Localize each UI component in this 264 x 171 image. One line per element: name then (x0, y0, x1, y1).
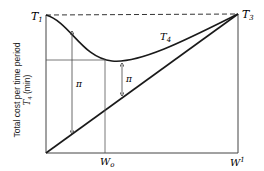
svg-text:T4 (min): T4 (min) (22, 74, 33, 105)
t4-curve (46, 14, 238, 61)
label-w1: W1 (230, 156, 245, 168)
label-wo: Wo (100, 156, 115, 169)
label-t4-curve: T4 (160, 31, 171, 44)
cost-diagram: T1 T3 T4 π π Wo W1 Total cost per time p… (0, 0, 264, 171)
diagonal-line (46, 14, 238, 153)
label-pi-left: π (75, 79, 83, 89)
label-pi-right: π (125, 74, 133, 84)
label-t3: T3 (242, 8, 254, 22)
dashed-top-line (46, 14, 238, 15)
y-axis-label: Total cost per time period T4 (min) (12, 42, 33, 137)
label-t1: T1 (31, 10, 43, 24)
svg-text:Total cost per time period: Total cost per time period (12, 42, 22, 137)
